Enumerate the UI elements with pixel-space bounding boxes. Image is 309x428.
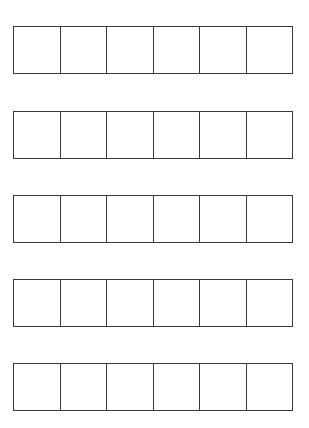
box-row-5: [13, 363, 293, 411]
box-cell[interactable]: [107, 196, 154, 242]
box-cell[interactable]: [107, 27, 154, 73]
box-cell[interactable]: [107, 280, 154, 326]
box-cell[interactable]: [247, 196, 293, 242]
box-cell[interactable]: [247, 364, 293, 410]
box-row-2: [13, 111, 293, 159]
box-cell[interactable]: [154, 280, 201, 326]
box-cell[interactable]: [200, 364, 247, 410]
box-cell[interactable]: [200, 27, 247, 73]
box-cell[interactable]: [14, 27, 61, 73]
box-cell[interactable]: [200, 196, 247, 242]
box-cell[interactable]: [14, 112, 61, 158]
box-cell[interactable]: [154, 196, 201, 242]
box-cell[interactable]: [154, 112, 201, 158]
box-cell[interactable]: [61, 196, 108, 242]
box-row-3: [13, 195, 293, 243]
box-cell[interactable]: [154, 364, 201, 410]
box-cell[interactable]: [247, 27, 293, 73]
box-cell[interactable]: [14, 196, 61, 242]
box-cell[interactable]: [61, 112, 108, 158]
box-cell[interactable]: [200, 280, 247, 326]
box-cell[interactable]: [14, 364, 61, 410]
box-cell[interactable]: [107, 364, 154, 410]
box-cell[interactable]: [107, 112, 154, 158]
box-cell[interactable]: [247, 280, 293, 326]
box-cell[interactable]: [154, 27, 201, 73]
box-cell[interactable]: [61, 280, 108, 326]
box-cell[interactable]: [247, 112, 293, 158]
box-cell[interactable]: [200, 112, 247, 158]
box-cell[interactable]: [14, 280, 61, 326]
box-cell[interactable]: [61, 27, 108, 73]
box-row-1: [13, 26, 293, 74]
box-row-4: [13, 279, 293, 327]
box-cell[interactable]: [61, 364, 108, 410]
